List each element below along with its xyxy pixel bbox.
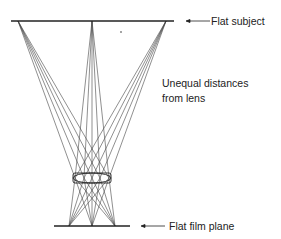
optics-diagram — [0, 0, 281, 239]
unequal-distances-label: Unequal distances — [162, 76, 248, 90]
speck-mark — [120, 31, 122, 33]
flat-subject-label: Flat subject — [211, 14, 265, 28]
from-lens-label: from lens — [162, 91, 205, 105]
light-rays — [18, 21, 166, 226]
film-arrow — [141, 225, 165, 228]
subject-arrow — [186, 20, 210, 23]
flat-film-plane-label: Flat film plane — [169, 219, 234, 233]
